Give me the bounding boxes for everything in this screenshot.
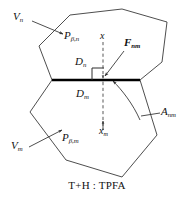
label-distance-m: Dm — [76, 88, 89, 101]
label-cell-m-volume: Vm — [11, 140, 23, 153]
label-distance-n: Dn — [75, 56, 86, 69]
label-interface-area: Anm — [161, 106, 176, 119]
figure-caption: T+H : TPFA — [0, 179, 194, 191]
label-cell-n-volume: Vn — [13, 11, 23, 24]
figure-container: Vn Pβ,n x Fnm Dn Dm xm Anm Vm Pβ,m T+H :… — [0, 0, 194, 199]
label-cell-n-point: Pβ,n — [64, 30, 79, 43]
label-axis-x-upper: x — [100, 31, 104, 41]
face-centroid-dot — [102, 79, 105, 82]
label-axis-x-lower: xm — [99, 126, 108, 137]
lower-cell-polygon — [30, 80, 157, 177]
label-flux-vector: Fnm — [124, 37, 140, 50]
tpfa-diagram-svg — [0, 0, 194, 199]
label-cell-m-point: Pβ,m — [62, 132, 78, 145]
